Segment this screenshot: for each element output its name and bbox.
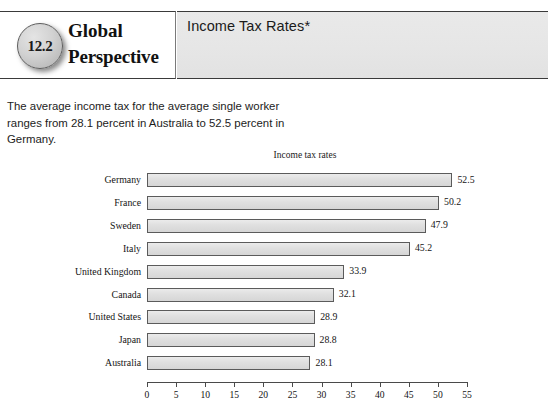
x-axis-tick <box>205 382 206 387</box>
bar-category-label: Italy <box>123 243 141 254</box>
x-axis-tick <box>234 382 235 387</box>
x-axis-tick-label: 30 <box>310 389 334 400</box>
bar-category-label: United States <box>88 311 141 322</box>
x-axis-tick-label: 15 <box>222 389 246 400</box>
x-axis-tick <box>292 382 293 387</box>
chart-plot-area: Germany52.5France50.2Sweden47.9Italy45.2… <box>147 170 467 378</box>
bar-category-label: Sweden <box>110 220 141 231</box>
bar-value-label: 28.8 <box>320 334 337 345</box>
feature-header-left: 12.2 Global Perspective <box>0 11 176 79</box>
bar-row: Sweden47.9 <box>147 216 467 239</box>
bar-category-label: Canada <box>112 289 141 300</box>
bar-value-label: 28.1 <box>315 357 332 368</box>
bar-value-label: 50.2 <box>444 196 461 207</box>
x-axis-tick <box>263 382 264 387</box>
feature-name-line1: Global <box>68 18 174 44</box>
bar <box>147 356 310 370</box>
bar <box>147 310 315 324</box>
x-axis-tick-label: 35 <box>339 389 363 400</box>
chapter-number-label: 12.2 <box>27 38 52 55</box>
bar-category-label: France <box>114 197 141 208</box>
bar-row: Canada32.1 <box>147 285 467 308</box>
bar-value-label: 52.5 <box>457 174 474 185</box>
bar <box>147 196 439 210</box>
x-axis-tick-label: 0 <box>135 389 159 400</box>
bar-row: United States28.9 <box>147 307 467 330</box>
x-axis-line <box>147 382 467 383</box>
x-axis-tick <box>409 382 410 387</box>
bar <box>147 219 426 233</box>
bar-value-label: 33.9 <box>349 265 366 276</box>
feature-title-box: Income Tax Rates* <box>177 11 548 79</box>
income-tax-rates-chart: Income tax rates Germany52.5France50.2Sw… <box>0 146 548 419</box>
bar-row: Australia28.1 <box>147 353 467 376</box>
x-axis-tick-label: 5 <box>164 389 188 400</box>
x-axis-tick <box>438 382 439 387</box>
bar-value-label: 32.1 <box>339 288 356 299</box>
chapter-number-badge: 12.2 <box>17 23 63 69</box>
feature-name: Global Perspective <box>68 18 174 70</box>
bar-category-label: Australia <box>105 357 141 368</box>
bar-row: United Kingdom33.9 <box>147 262 467 285</box>
x-axis-tick-label: 55 <box>455 389 479 400</box>
bar <box>147 242 410 256</box>
x-axis-tick-label: 25 <box>280 389 304 400</box>
bar-category-label: Germany <box>105 174 141 185</box>
bar-category-label: United Kingdom <box>75 266 141 277</box>
x-axis-tick <box>467 382 468 387</box>
bar <box>147 333 315 347</box>
x-axis-tick <box>147 382 148 387</box>
bar-value-label: 28.9 <box>320 311 337 322</box>
bar <box>147 265 344 279</box>
x-axis-tick-label: 20 <box>251 389 275 400</box>
feature-name-line2: Perspective <box>68 44 174 70</box>
bar-row: France50.2 <box>147 193 467 216</box>
x-axis-tick <box>351 382 352 387</box>
bar-category-label: Japan <box>119 334 141 345</box>
x-axis-tick <box>322 382 323 387</box>
x-axis-tick-label: 45 <box>397 389 421 400</box>
page-title: Income Tax Rates* <box>187 18 310 34</box>
bar-row: Italy45.2 <box>147 239 467 262</box>
x-axis-tick <box>176 382 177 387</box>
chart-title: Income tax rates <box>245 150 365 160</box>
x-axis-tick-label: 50 <box>426 389 450 400</box>
bar-row: Japan28.8 <box>147 330 467 353</box>
bar <box>147 173 452 187</box>
bar-value-label: 45.2 <box>415 242 432 253</box>
feature-header: 12.2 Global Perspective Income Tax Rates… <box>0 11 548 79</box>
x-axis-tick-label: 10 <box>193 389 217 400</box>
x-axis-tick-label: 40 <box>368 389 392 400</box>
bar-value-label: 47.9 <box>431 219 448 230</box>
bar-row: Germany52.5 <box>147 170 467 193</box>
intro-paragraph: The average income tax for the average s… <box>7 98 307 148</box>
bar <box>147 288 334 302</box>
x-axis-tick <box>380 382 381 387</box>
